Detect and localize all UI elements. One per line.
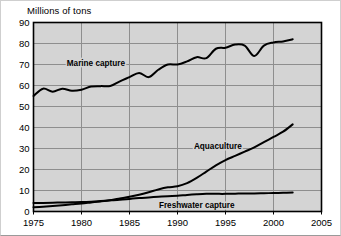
series-label: Aquaculture [194,142,242,151]
y-axis-tick-label: 30 [19,143,30,154]
x-axis-tick-label: 2005 [311,217,332,228]
y-axis-tick-label: 90 [19,17,30,28]
series-label: Marine capture [67,59,126,68]
y-axis-tick-label: 80 [19,38,30,49]
x-axis-tick-label: 1975 [23,217,44,228]
y-axis-tick-label: 0 [24,206,29,217]
fisheries-line-chart: 0102030405060708090 19751980198519901995… [1,1,341,236]
series-label: Freshwater capture [159,201,235,210]
y-axis-tick-label: 20 [19,164,30,175]
y-axis-tick-label: 40 [19,122,30,133]
y-axis-tick-label: 60 [19,80,30,91]
y-axis-tick-label: 10 [19,185,30,196]
x-axis-ticks-group: 1975198019851990199520002005 [23,212,332,228]
x-axis-tick-label: 1980 [71,217,92,228]
x-axis-tick-label: 1995 [215,217,236,228]
x-axis-tick-label: 2000 [263,217,284,228]
x-axis-tick-label: 1985 [119,217,140,228]
y-axis-ticks-group: 0102030405060708090 [19,17,30,217]
y-axis-tick-label: 50 [19,101,30,112]
chart-frame: Millions of tons 0102030405060708090 197… [0,0,341,236]
y-axis-tick-label: 70 [19,59,30,70]
x-axis-tick-label: 1990 [167,217,188,228]
